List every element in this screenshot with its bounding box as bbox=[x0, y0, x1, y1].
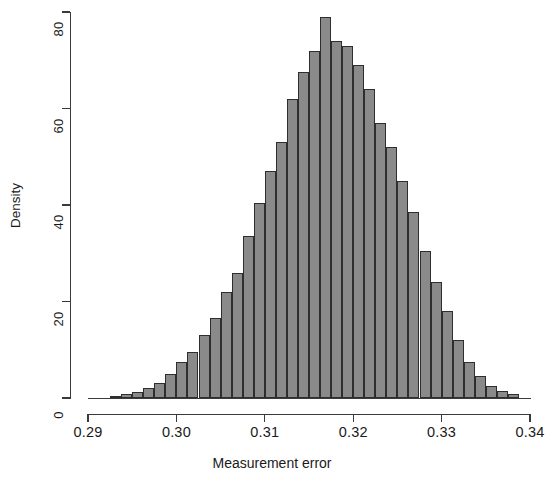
x-tick-label: 0.34 bbox=[490, 424, 549, 440]
histogram-bar bbox=[331, 41, 342, 398]
y-axis-title-text: Density bbox=[8, 182, 23, 227]
histogram-bar bbox=[199, 335, 210, 398]
histogram-bar bbox=[386, 147, 397, 398]
y-tick-label: 80 bbox=[52, 12, 65, 46]
histogram-bar bbox=[364, 89, 375, 398]
histogram-bars bbox=[88, 12, 530, 398]
y-axis-title: Density bbox=[6, 0, 24, 410]
histogram-bar bbox=[143, 388, 154, 398]
x-tick-mark bbox=[264, 414, 265, 422]
y-tick-label: 40 bbox=[52, 205, 65, 239]
x-tick-mark bbox=[87, 414, 88, 422]
y-tick-label-text: 80 bbox=[52, 12, 65, 46]
histogram-bar bbox=[475, 376, 486, 398]
y-tick-label-text: 20 bbox=[52, 302, 65, 336]
histogram-bar bbox=[353, 65, 364, 398]
x-tick-mark bbox=[529, 414, 530, 422]
histogram-baseline bbox=[88, 398, 531, 399]
histogram-bar bbox=[254, 203, 265, 398]
x-axis-line bbox=[88, 414, 531, 415]
histogram-bar bbox=[486, 386, 497, 398]
x-tick-mark bbox=[176, 414, 177, 422]
histogram-bar bbox=[243, 236, 254, 398]
x-tick-mark bbox=[441, 414, 442, 422]
histogram-bar bbox=[210, 318, 221, 398]
histogram-bar bbox=[187, 352, 198, 398]
y-tick-label: 20 bbox=[52, 302, 65, 336]
histogram-bar bbox=[342, 46, 353, 398]
y-tick-label-text: 60 bbox=[52, 109, 65, 143]
histogram-bar bbox=[154, 383, 165, 398]
histogram-bar bbox=[309, 51, 320, 398]
y-tick-label-text: 40 bbox=[52, 205, 65, 239]
x-tick-label: 0.31 bbox=[225, 424, 305, 440]
histogram-bar bbox=[464, 362, 475, 398]
histogram-bar bbox=[375, 123, 386, 398]
x-tick-label: 0.29 bbox=[48, 424, 128, 440]
histogram-bar bbox=[165, 374, 176, 398]
histogram-bar bbox=[276, 142, 287, 398]
y-axis-line bbox=[70, 12, 71, 399]
histogram-bar bbox=[408, 212, 419, 398]
x-tick-label: 0.30 bbox=[136, 424, 216, 440]
x-tick-mark bbox=[353, 414, 354, 422]
histogram-bar bbox=[453, 340, 464, 398]
histogram-bar bbox=[265, 171, 276, 398]
x-tick-label: 0.32 bbox=[313, 424, 393, 440]
histogram-bar bbox=[420, 251, 431, 398]
histogram-bar bbox=[298, 72, 309, 398]
histogram-bar bbox=[320, 17, 331, 398]
histogram-bar bbox=[397, 181, 408, 398]
histogram-bar bbox=[176, 362, 187, 398]
histogram-bar bbox=[442, 311, 453, 398]
y-tick-label: 60 bbox=[52, 109, 65, 143]
histogram-bar bbox=[232, 273, 243, 398]
histogram-bar bbox=[431, 282, 442, 398]
histogram-bar bbox=[287, 99, 298, 398]
x-tick-label: 0.33 bbox=[402, 424, 482, 440]
histogram-bar bbox=[221, 292, 232, 398]
x-axis-title: Measurement error bbox=[0, 455, 544, 471]
